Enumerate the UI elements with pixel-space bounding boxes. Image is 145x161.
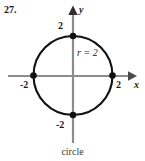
point-marker-left xyxy=(30,72,37,79)
point-marker-top xyxy=(70,33,77,40)
y-axis-arrowhead xyxy=(68,6,77,16)
figure-container: 27. 2 -2 -2 2 y x r = 2 circle xyxy=(0,0,145,161)
point-marker-right xyxy=(109,72,116,79)
tick-label-y-top: 2 xyxy=(58,21,63,31)
figure-caption: circle xyxy=(0,147,145,157)
axis-label-y: y xyxy=(79,5,83,15)
radius-equation-label: r = 2 xyxy=(77,48,98,58)
tick-label-y-bottom: -2 xyxy=(56,120,64,130)
axis-label-x: x xyxy=(134,80,139,90)
tick-label-x-right: 2 xyxy=(116,80,121,90)
tick-label-x-left: -2 xyxy=(20,80,28,90)
point-marker-bottom xyxy=(70,112,77,119)
